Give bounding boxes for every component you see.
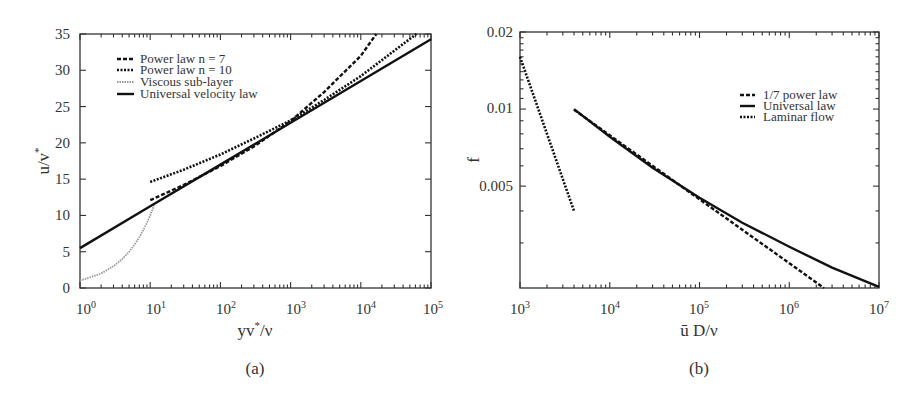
legend-label: Laminar flow	[763, 109, 835, 124]
y-tick-label: 0	[63, 280, 71, 296]
chart-a-legend: Power law n = 7 Power law n = 10 Viscous…	[117, 51, 258, 101]
chart-b-x-tick-labels: 103 104 105 106 107	[510, 299, 889, 317]
chart-a-caption: (a)	[246, 359, 265, 378]
chart-b-caption: (b)	[689, 359, 709, 378]
chart-a: 0 5 10 15 20 25 30 35 100 101 102 103 10…	[32, 26, 443, 378]
chart-b-legend: 1/7 power law Universal law Laminar flow	[740, 87, 838, 124]
chart-b-y-tick-labels: 0.02 0.01 0.005	[479, 24, 513, 194]
x-tick-label: 102	[216, 299, 236, 317]
y-tick-label: 5	[63, 244, 71, 260]
x-tick-label: 103	[510, 299, 530, 317]
y-tick-label: 0.01	[487, 100, 513, 116]
x-tick-label: 100	[76, 299, 96, 317]
x-tick-label: 101	[146, 299, 166, 317]
x-tick-label: 103	[286, 299, 306, 317]
y-tick-label: 20	[55, 135, 70, 151]
chart-a-y-tick-labels: 0 5 10 15 20 25 30 35	[55, 26, 70, 296]
y-tick-label: 10	[55, 207, 70, 223]
y-tick-label: 15	[55, 171, 70, 187]
series-laminar-flow	[520, 57, 574, 211]
x-tick-label: 104	[356, 299, 376, 317]
x-tick-label: 104	[600, 299, 620, 317]
chart-a-x-axis-title: yv*/ν	[238, 319, 273, 340]
chart-b-y-axis-title: f	[464, 157, 483, 163]
series-viscous-sub-layer	[80, 205, 154, 280]
x-tick-label: 107	[869, 299, 889, 317]
figure: 0 5 10 15 20 25 30 35 100 101 102 103 10…	[0, 0, 920, 399]
chart-b-ticks	[520, 32, 879, 288]
series-universal-law	[574, 109, 879, 287]
chart-a-plot-frame	[80, 34, 431, 288]
chart-b-x-axis-title: ū D/ν	[680, 321, 718, 340]
chart-a-y-axis-title: u/v*	[32, 147, 53, 174]
chart-a-ticks	[80, 34, 431, 288]
y-tick-label: 0.02	[487, 24, 513, 40]
y-tick-label: 0.005	[479, 178, 513, 194]
x-tick-label: 105	[423, 299, 443, 317]
y-tick-label: 30	[55, 62, 70, 78]
chart-b: 0.02 0.01 0.005 103 104 105 106 107 f ū …	[464, 24, 889, 378]
y-tick-label: 35	[55, 26, 70, 42]
legend-label: Universal velocity law	[140, 86, 258, 101]
chart-b-plot-frame	[520, 32, 879, 288]
x-tick-label: 105	[689, 299, 709, 317]
x-tick-label: 106	[779, 299, 799, 317]
y-tick-label: 25	[55, 99, 70, 115]
chart-a-x-tick-labels: 100 101 102 103 104 105	[76, 299, 443, 317]
